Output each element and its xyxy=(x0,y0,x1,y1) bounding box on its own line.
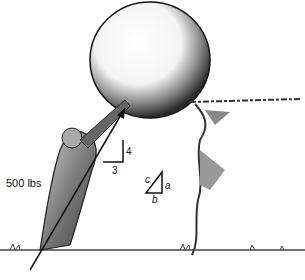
scene-drawing xyxy=(0,0,305,280)
person-figure xyxy=(40,131,96,250)
ledge-line xyxy=(190,99,300,102)
slope-run-label: 3 xyxy=(112,165,118,176)
vertical-side-label: a xyxy=(165,180,171,191)
hypotenuse-label: c xyxy=(145,174,150,185)
force-label: 500 lbs xyxy=(6,177,41,189)
illustration-stage: 500 lbs 4 3 c a b xyxy=(0,0,305,280)
slope-indicator xyxy=(103,140,123,162)
person-head xyxy=(62,128,82,148)
slope-rise-label: 4 xyxy=(126,146,132,157)
horizontal-side-label: b xyxy=(152,194,158,205)
boulder xyxy=(90,2,210,118)
